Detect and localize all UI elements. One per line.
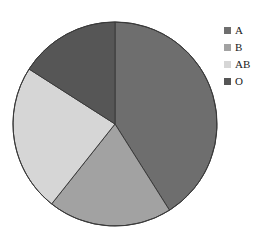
legend-item-a[interactable]: A xyxy=(224,22,272,38)
pie-slice-group xyxy=(13,22,217,226)
chart-legend: A B AB O xyxy=(224,22,272,90)
legend-swatch-ab-icon xyxy=(224,61,231,68)
legend-label-o: O xyxy=(235,76,243,87)
pie-plot-area xyxy=(0,0,230,234)
legend-label-ab: AB xyxy=(235,59,250,70)
legend-swatch-o-icon xyxy=(224,78,231,85)
legend-label-a: A xyxy=(235,25,243,36)
legend-swatch-a-icon xyxy=(224,27,231,34)
pie-chart-figure: A B AB O xyxy=(0,0,272,234)
legend-item-ab[interactable]: AB xyxy=(224,56,272,72)
pie-svg xyxy=(0,0,230,234)
legend-item-b[interactable]: B xyxy=(224,39,272,55)
legend-label-b: B xyxy=(235,42,242,53)
legend-swatch-b-icon xyxy=(224,44,231,51)
legend-item-o[interactable]: O xyxy=(224,73,272,89)
